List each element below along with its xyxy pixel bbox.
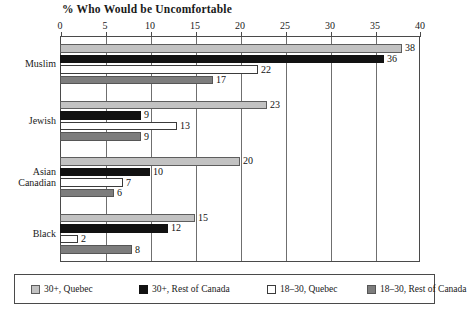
bar-value-label: 20 <box>243 156 253 166</box>
bar[interactable] <box>60 235 78 243</box>
bar-value-label: 36 <box>387 54 397 64</box>
bar-row: 17 <box>60 76 420 84</box>
bar-value-label: 22 <box>261 65 271 75</box>
bar[interactable] <box>60 122 177 130</box>
legend-swatch-icon <box>367 285 376 294</box>
legend-swatch-icon <box>139 285 148 294</box>
x-tick-label-20: 20 <box>235 20 245 31</box>
bar-group-muslim: 38362217 <box>60 44 420 84</box>
bar-value-label: 23 <box>270 100 280 110</box>
bar-row: 6 <box>60 189 420 197</box>
bar[interactable] <box>60 214 195 222</box>
bar-value-label: 17 <box>216 75 226 85</box>
bar-group-asian-canadian: 201076 <box>60 157 420 197</box>
x-tick-label-10: 10 <box>145 20 155 31</box>
bar-row: 2 <box>60 235 420 243</box>
bar-value-label: 13 <box>180 121 190 131</box>
bar[interactable] <box>60 55 384 63</box>
bar-group-jewish: 239139 <box>60 101 420 141</box>
legend-item-1[interactable]: 30+, Rest of Canada <box>139 284 230 294</box>
category-label-black: Black <box>0 229 56 240</box>
bar[interactable] <box>60 65 258 73</box>
bar-row: 36 <box>60 55 420 63</box>
bar-value-label: 8 <box>135 245 140 255</box>
chart-legend: 30+, Quebec30+, Rest of Canada18–30, Que… <box>14 274 435 304</box>
bar-row: 15 <box>60 214 420 222</box>
bar[interactable] <box>60 224 168 232</box>
bar-row: 13 <box>60 122 420 130</box>
bar-groups: 38362217239139201076151228 <box>60 36 420 262</box>
bar-row: 9 <box>60 111 420 119</box>
x-tick-label-0: 0 <box>58 20 63 31</box>
legend-item-3[interactable]: 18–30, Rest of Canada <box>367 284 467 294</box>
bar-group-black: 151228 <box>60 214 420 254</box>
category-axis-labels: MuslimJewishAsian CanadianBlack <box>0 36 60 262</box>
bar-value-label: 6 <box>117 188 122 198</box>
bar[interactable] <box>60 101 267 109</box>
bar-value-label: 7 <box>126 178 131 188</box>
x-tick-label-35: 35 <box>370 20 380 31</box>
bar-row: 9 <box>60 132 420 140</box>
category-label-muslim: Muslim <box>0 59 56 70</box>
chart-title: % Who Would be Uncomfortable <box>62 3 232 15</box>
legend-swatch-icon <box>267 285 276 294</box>
bar[interactable] <box>60 76 213 84</box>
legend-swatch-icon <box>31 285 40 294</box>
legend-label: 18–30, Quebec <box>280 284 338 294</box>
bar[interactable] <box>60 245 132 253</box>
bar[interactable] <box>60 132 141 140</box>
bar-row: 10 <box>60 168 420 176</box>
legend-label: 30+, Rest of Canada <box>152 284 230 294</box>
bar-row: 38 <box>60 44 420 52</box>
bar[interactable] <box>60 111 141 119</box>
bar-value-label: 2 <box>81 234 86 244</box>
legend-item-2[interactable]: 18–30, Quebec <box>267 284 338 294</box>
x-tick-label-40: 40 <box>415 20 425 31</box>
bar-row: 7 <box>60 178 420 186</box>
x-tick-label-25: 25 <box>280 20 290 31</box>
bar-row: 12 <box>60 224 420 232</box>
bar-value-label: 12 <box>171 223 181 233</box>
bar-value-label: 38 <box>405 43 415 53</box>
legend-label: 18–30, Rest of Canada <box>380 284 467 294</box>
bar-row: 20 <box>60 157 420 165</box>
bar[interactable] <box>60 44 402 52</box>
bar[interactable] <box>60 168 150 176</box>
x-tickmark-40 <box>420 32 421 37</box>
bar-row: 22 <box>60 65 420 73</box>
x-tick-label-30: 30 <box>325 20 335 31</box>
bar[interactable] <box>60 189 114 197</box>
bar-row: 23 <box>60 101 420 109</box>
x-tick-label-5: 5 <box>103 20 108 31</box>
legend-label: 30+, Quebec <box>44 284 93 294</box>
x-tick-label-15: 15 <box>190 20 200 31</box>
legend-item-0[interactable]: 30+, Quebec <box>31 284 93 294</box>
bar[interactable] <box>60 157 240 165</box>
bar-row: 8 <box>60 245 420 253</box>
category-label-asian-canadian: Asian Canadian <box>0 167 56 188</box>
category-label-jewish: Jewish <box>0 116 56 127</box>
bar-value-label: 10 <box>153 167 163 177</box>
x-axis-tick-labels: 0510152025303540 <box>0 20 449 33</box>
bar-value-label: 9 <box>144 110 149 120</box>
bar-value-label: 9 <box>144 132 149 142</box>
bar-value-label: 15 <box>198 213 208 223</box>
bar[interactable] <box>60 178 123 186</box>
